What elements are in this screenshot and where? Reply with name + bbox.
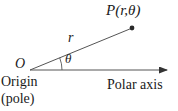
polar-coordinate-diagram: P(r,θ) r θ O Origin (pole) Polar axis xyxy=(0,0,178,111)
angle-arc xyxy=(60,58,62,70)
polar-axis-label: Polar axis xyxy=(107,78,163,92)
origin-word-label: Origin xyxy=(1,75,38,89)
radius-label: r xyxy=(68,31,73,45)
point-p-dot xyxy=(130,26,135,31)
angle-theta-label: θ xyxy=(65,52,71,65)
radius-ray-line xyxy=(30,29,131,71)
pole-word-label: (pole) xyxy=(1,92,34,106)
origin-symbol-label: O xyxy=(15,57,25,71)
point-p-label: P(r,θ) xyxy=(106,3,140,18)
